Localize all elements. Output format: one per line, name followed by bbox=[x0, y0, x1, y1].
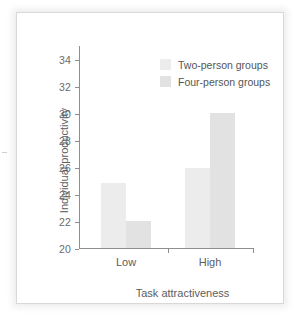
y-tick-label: 32 bbox=[59, 81, 71, 93]
x-category-label: Low bbox=[116, 256, 136, 268]
legend: Two-person groupsFour-person groups bbox=[160, 56, 270, 90]
y-tick: 30 bbox=[75, 114, 79, 115]
legend-swatch bbox=[160, 76, 171, 87]
page-edge-mark bbox=[2, 152, 7, 153]
legend-swatch bbox=[160, 59, 171, 70]
x-tick bbox=[168, 249, 169, 253]
x-tick bbox=[253, 249, 254, 253]
y-tick-label: 34 bbox=[59, 54, 71, 66]
bar bbox=[101, 183, 126, 248]
y-tick-label: 22 bbox=[59, 216, 71, 228]
bar bbox=[185, 168, 210, 248]
y-axis-title: Individual productivity bbox=[58, 108, 70, 213]
y-tick: 34 bbox=[75, 60, 79, 61]
y-axis-line bbox=[79, 46, 80, 249]
bar bbox=[210, 113, 235, 248]
y-tick: 26 bbox=[75, 168, 79, 169]
y-tick: 32 bbox=[75, 87, 79, 88]
legend-item: Two-person groups bbox=[160, 56, 270, 73]
y-tick-label: 20 bbox=[59, 243, 71, 255]
x-axis-line bbox=[79, 248, 254, 249]
y-tick: 24 bbox=[75, 195, 79, 196]
x-category-label: High bbox=[199, 256, 222, 268]
y-tick: 28 bbox=[75, 141, 79, 142]
x-axis-title: Task attractiveness bbox=[95, 287, 270, 299]
y-tick: 20 bbox=[75, 249, 79, 250]
bar bbox=[126, 221, 151, 248]
figure: 2022242628303234 LowHigh Individual prod… bbox=[0, 0, 302, 330]
chart-frame: 2022242628303234 LowHigh Individual prod… bbox=[16, 12, 284, 304]
legend-label: Two-person groups bbox=[178, 59, 268, 71]
legend-label: Four-person groups bbox=[178, 76, 270, 88]
legend-item: Four-person groups bbox=[160, 73, 270, 90]
y-tick: 22 bbox=[75, 222, 79, 223]
